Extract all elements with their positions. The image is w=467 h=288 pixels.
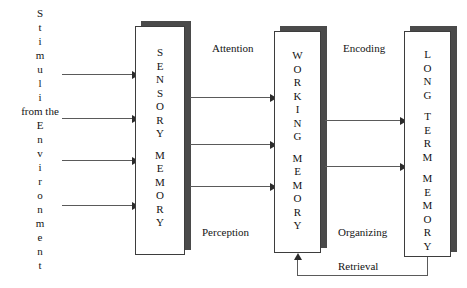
- box-letter: M: [135, 149, 185, 163]
- stimulus-arrow-line-4: [62, 205, 134, 206]
- working-to-longterm-line-2: [325, 166, 404, 167]
- environment-letter: n: [14, 244, 66, 258]
- diagram-canvas: S t i m u l i from the E n v i r o n m e…: [0, 0, 467, 288]
- retrieval-arrowhead: [294, 253, 302, 260]
- environment-letter: o: [14, 188, 66, 202]
- box-letter: K: [274, 90, 321, 104]
- box-letter: M: [404, 172, 451, 186]
- box-letter: O: [135, 100, 185, 114]
- box-letter: S: [135, 46, 185, 60]
- box-letter: Y: [135, 127, 185, 141]
- box-letter: G: [404, 89, 451, 103]
- environment-letter: i: [14, 160, 66, 174]
- box-letter: M: [135, 176, 185, 190]
- attention-label: Attention: [212, 42, 254, 54]
- retrieval-line-horizontal: [297, 275, 428, 276]
- organizing-label: Organizing: [338, 226, 387, 238]
- working-memory-label: W O R K I N G M E M O R Y: [274, 49, 321, 233]
- encoding-label: Encoding: [343, 42, 385, 54]
- box-letter: E: [404, 124, 451, 138]
- box-letter: O: [274, 63, 321, 77]
- box-letter: M: [404, 199, 451, 213]
- environment-letter: v: [14, 146, 66, 160]
- box-letter: N: [404, 75, 451, 89]
- box-letter: O: [404, 62, 451, 76]
- box-letter: T: [404, 110, 451, 124]
- box-letter: S: [135, 87, 185, 101]
- word-gap: [274, 144, 321, 152]
- sensory-memory-box[interactable]: S E N S O R Y M E M O R Y: [135, 26, 185, 255]
- box-letter: Y: [274, 219, 321, 233]
- environment-letter: r: [14, 174, 66, 188]
- box-letter: E: [274, 165, 321, 179]
- stimuli-letter: u: [14, 62, 66, 76]
- stimuli-letter: i: [14, 90, 66, 104]
- stimuli-letter: l: [14, 76, 66, 90]
- stimuli-letter: t: [14, 20, 66, 34]
- environment-letter: t: [14, 258, 66, 272]
- sensory-to-working-line-3: [190, 186, 274, 187]
- box-letter: O: [404, 213, 451, 227]
- box-letter: M: [404, 151, 451, 165]
- environment-letter: n: [14, 202, 66, 216]
- long-term-memory-label: L O N G T E R M M E M O R Y: [404, 48, 451, 253]
- sensory-to-working-line-2: [190, 144, 274, 145]
- box-letter: L: [404, 48, 451, 62]
- box-letter: R: [274, 76, 321, 90]
- stimuli-source-label: S t i m u l i from the E n v i r o n m e…: [14, 6, 66, 272]
- stimuli-letter: S: [14, 6, 66, 20]
- box-letter: R: [404, 137, 451, 151]
- retrieval-line-up: [297, 260, 298, 276]
- box-letter: R: [404, 226, 451, 240]
- retrieval-label: Retrieval: [338, 260, 378, 272]
- sensory-to-working-line-1: [190, 97, 274, 98]
- environment-letter: E: [14, 118, 66, 132]
- stimuli-from-the-label: from the: [14, 104, 66, 118]
- box-letter: O: [274, 192, 321, 206]
- sensory-memory-label: S E N S O R Y M E M O R Y: [135, 46, 185, 230]
- box-letter: E: [135, 60, 185, 74]
- perception-label: Perception: [202, 226, 249, 238]
- retrieval-line-down: [427, 257, 428, 276]
- box-letter: I: [274, 103, 321, 117]
- word-gap: [135, 141, 185, 149]
- box-letter: R: [135, 203, 185, 217]
- box-letter: R: [135, 114, 185, 128]
- box-letter: Y: [404, 240, 451, 254]
- box-letter: M: [274, 152, 321, 166]
- box-letter: Y: [135, 216, 185, 230]
- box-letter: E: [404, 186, 451, 200]
- working-to-longterm-line-1: [325, 120, 404, 121]
- word-gap: [404, 164, 451, 172]
- stimulus-arrow-line-1: [62, 74, 134, 75]
- environment-letter: m: [14, 216, 66, 230]
- working-memory-box[interactable]: W O R K I N G M E M O R Y: [274, 31, 321, 253]
- box-letter: E: [135, 162, 185, 176]
- stimulus-arrow-line-2: [62, 118, 134, 119]
- environment-letter: e: [14, 230, 66, 244]
- box-letter: M: [274, 179, 321, 193]
- box-letter: W: [274, 49, 321, 63]
- box-letter: O: [135, 189, 185, 203]
- word-gap: [404, 102, 451, 110]
- stimuli-letter: m: [14, 48, 66, 62]
- box-letter: R: [274, 206, 321, 220]
- stimulus-arrow-line-3: [62, 160, 134, 161]
- box-letter: N: [135, 73, 185, 87]
- box-letter: G: [274, 130, 321, 144]
- box-letter: N: [274, 117, 321, 131]
- stimuli-letter: i: [14, 34, 66, 48]
- environment-letter: n: [14, 132, 66, 146]
- long-term-memory-box[interactable]: L O N G T E R M M E M O R Y: [404, 31, 451, 257]
